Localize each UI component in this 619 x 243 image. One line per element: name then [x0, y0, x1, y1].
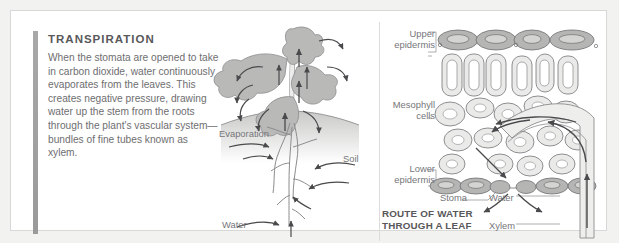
body-paragraph: When the stomata are opened to take in c…	[48, 51, 220, 160]
transpiration-text-block: TRANSPIRATION When the stomata are opene…	[48, 33, 220, 160]
label-upper-epidermis: Upper epidermis	[387, 28, 435, 51]
label-mesophyll-line1: Mesophyll	[379, 99, 435, 110]
infographic-page: TRANSPIRATION When the stomata are opene…	[0, 0, 619, 243]
page-title: TRANSPIRATION	[48, 33, 220, 45]
label-soil: Soil	[343, 153, 359, 164]
label-lower-epidermis: Lower epidermis	[387, 163, 435, 186]
label-stoma: Stoma	[425, 192, 467, 203]
figure-caption-line2: THROUGH A LEAF	[382, 220, 473, 232]
xylem-vessel	[500, 104, 594, 238]
figure-caption: ROUTE OF WATER THROUGH A LEAF	[382, 208, 473, 231]
label-lower-epidermis-line1: Lower	[387, 163, 435, 174]
label-xylem: Xylem	[489, 220, 515, 231]
label-upper-epidermis-line2: epidermis	[387, 39, 435, 50]
label-evaporation: Evaporation	[219, 128, 269, 139]
label-upper-epidermis-line1: Upper	[387, 28, 435, 39]
palisade-mesophyll-cells	[442, 54, 578, 96]
content-panel: TRANSPIRATION When the stomata are opene…	[10, 10, 607, 231]
figure-caption-line1: ROUTE OF WATER	[382, 208, 473, 220]
accent-bar	[33, 31, 38, 234]
label-mesophyll-cells: Mesophyll cells	[379, 99, 435, 122]
label-lower-epidermis-line2: epidermis	[387, 174, 435, 185]
label-water-xylem: Water	[489, 192, 514, 203]
label-mesophyll-line2: cells	[379, 110, 435, 121]
label-water-roots: Water	[222, 219, 247, 230]
